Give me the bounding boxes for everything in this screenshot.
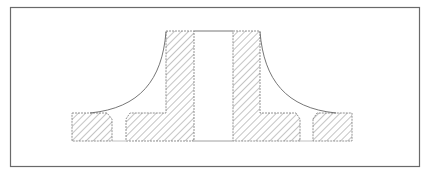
left-flange-segment <box>72 113 112 141</box>
right-fillet-curve <box>260 32 336 113</box>
right-hub-wall <box>233 31 300 141</box>
left-fillet-curve <box>90 32 166 113</box>
left-hub-wall <box>126 31 194 141</box>
right-flange-segment <box>313 113 352 141</box>
flange-cross-section-drawing <box>0 0 431 177</box>
